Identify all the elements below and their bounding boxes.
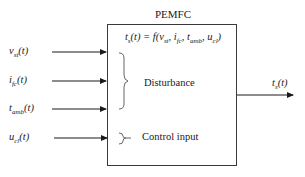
control-brace-icon [119,133,126,144]
connection-lines [0,0,305,177]
disturbance-brace-icon [119,53,128,109]
